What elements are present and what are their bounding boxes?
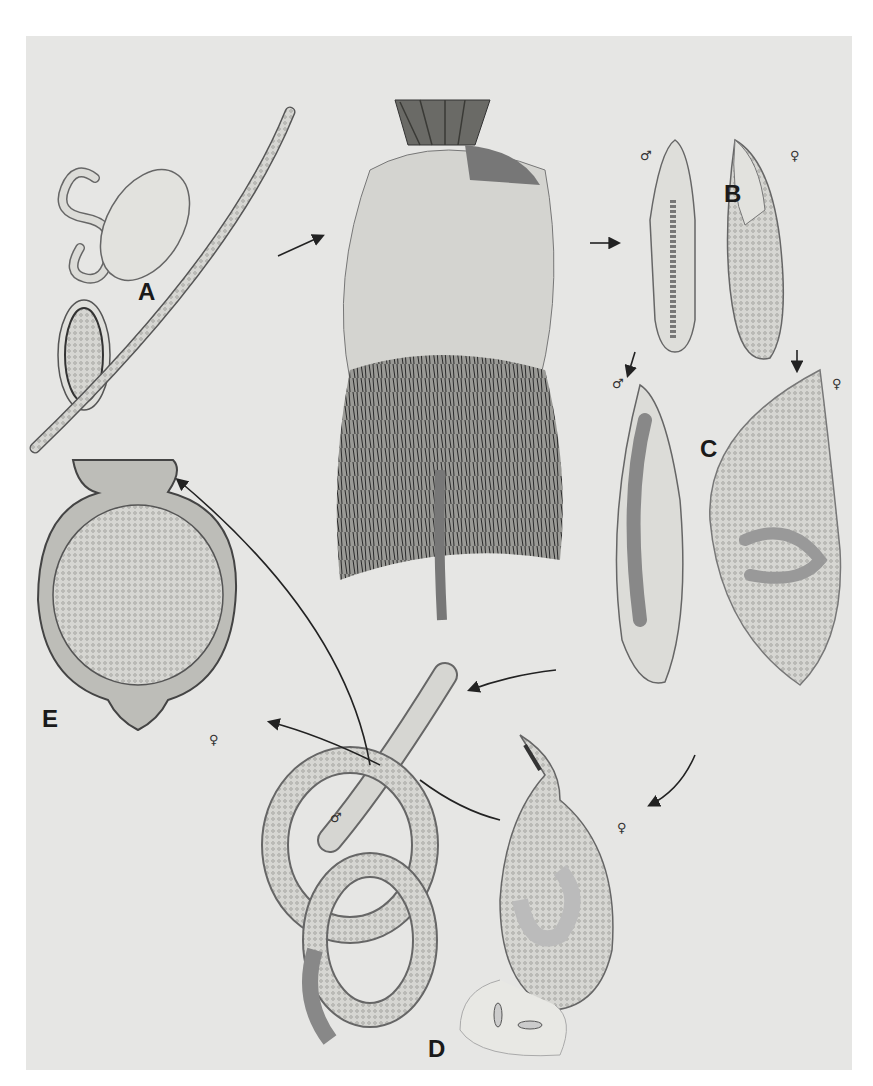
female-symbol-d: ♀ <box>617 820 627 835</box>
stage-a-juveniles <box>35 112 290 448</box>
male-symbol-d: ♂ <box>330 810 342 825</box>
label-stage-b: B <box>724 180 741 208</box>
stage-b-female <box>728 140 784 359</box>
stage-c-female <box>710 370 841 685</box>
sugar-beet <box>337 100 563 620</box>
male-symbol-c: ♂ <box>612 376 624 391</box>
stage-e-cyst <box>38 460 236 730</box>
stage-d-male <box>275 675 445 1040</box>
female-symbol-c: ♀ <box>832 376 842 391</box>
label-stage-a: A <box>138 278 155 306</box>
label-stage-e: E <box>42 705 58 733</box>
label-stage-c: C <box>700 435 717 463</box>
female-symbol-b: ♀ <box>790 148 800 163</box>
label-stage-d: D <box>428 1035 445 1063</box>
female-symbol-e: ♀ <box>209 732 219 747</box>
life-cycle-drawing <box>0 0 873 1086</box>
male-symbol-b: ♂ <box>640 148 652 163</box>
stage-d-female <box>460 735 613 1056</box>
stage-b-male <box>650 140 695 352</box>
stage-c-male <box>616 385 682 683</box>
